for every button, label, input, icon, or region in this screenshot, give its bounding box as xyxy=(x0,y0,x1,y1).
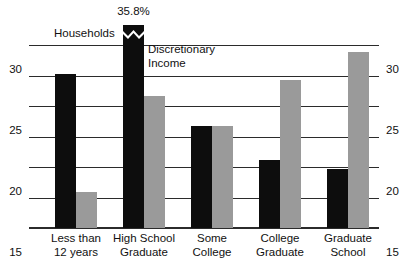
y-axis-right-tick: 15 xyxy=(386,247,399,259)
y-axis-right-tick: 20 xyxy=(386,186,399,198)
bar-households xyxy=(123,25,144,228)
bar-discretionary-income xyxy=(348,52,369,228)
bar-households xyxy=(327,169,348,228)
axis-break-mark-icon xyxy=(123,26,144,39)
x-axis-category-label: Less than12 years xyxy=(42,232,110,259)
bar-group xyxy=(55,20,97,228)
bar-households xyxy=(259,160,280,228)
y-axis-left-tick: 25 xyxy=(9,125,22,137)
x-axis-label-line: Graduate xyxy=(110,246,178,260)
x-axis-category-label: High SchoolGraduate xyxy=(110,232,178,259)
x-axis-label-line: High School xyxy=(110,232,178,246)
x-axis-label-line: College xyxy=(178,246,246,260)
chart-title-cropped xyxy=(0,0,408,1)
bar-households xyxy=(191,126,212,228)
bar-discretionary-income xyxy=(144,96,165,228)
x-axis-label-line: School xyxy=(314,246,382,260)
y-axis-left-tick: 15 xyxy=(9,247,22,259)
x-axis-label-line: Less than xyxy=(42,232,110,246)
bar-data-label: 35.8% xyxy=(112,6,155,18)
bar-discretionary-income xyxy=(280,80,301,228)
annotation-discretionary-line2: Income xyxy=(148,57,215,71)
x-axis-category-label: GraduateSchool xyxy=(314,232,382,259)
bar-discretionary-income xyxy=(76,192,97,228)
bar-group xyxy=(259,20,301,228)
x-axis-label-line: Graduate xyxy=(314,232,382,246)
y-axis-left-tick: 30 xyxy=(9,64,22,76)
x-axis-label-line: Graduate xyxy=(246,246,314,260)
x-axis-label-line: College xyxy=(246,232,314,246)
y-axis-right-tick: 30 xyxy=(386,64,399,76)
bar-chart: 005510101515202025253030 Households Disc… xyxy=(0,0,408,267)
annotation-households: Households xyxy=(54,27,115,41)
x-axis-label-line: Some xyxy=(178,232,246,246)
x-axis-category-label: CollegeGraduate xyxy=(246,232,314,259)
bar-group xyxy=(327,20,369,228)
y-axis-right-tick: 25 xyxy=(386,125,399,137)
bar-households xyxy=(55,74,76,228)
annotation-discretionary-line1: Discretionary xyxy=(148,43,215,57)
x-axis-label-line: 12 years xyxy=(42,246,110,260)
annotation-households-label: Households xyxy=(54,27,115,41)
annotation-discretionary-income: Discretionary Income xyxy=(148,43,215,70)
y-axis-left-tick: 20 xyxy=(9,186,22,198)
bar-discretionary-income xyxy=(212,126,233,228)
x-axis-category-label: SomeCollege xyxy=(178,232,246,259)
